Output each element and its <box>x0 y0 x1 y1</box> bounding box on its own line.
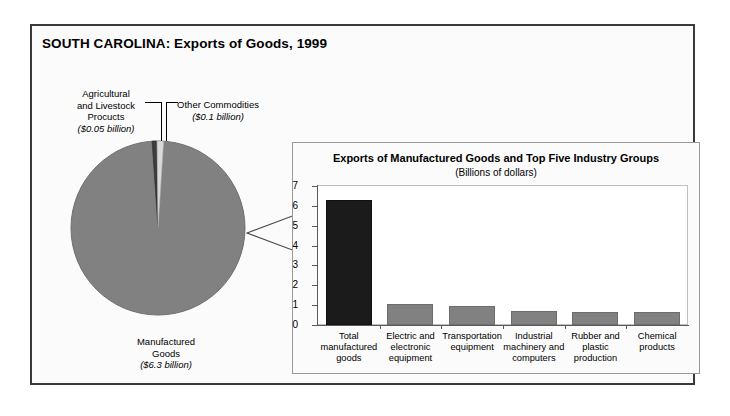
x-axis-label-2: Electric andelectronicequipment <box>380 331 442 364</box>
y-axis-tick-mark <box>312 186 317 187</box>
y-axis-tick-mark <box>312 206 317 207</box>
bar-slot <box>565 186 627 325</box>
x-axis-tick-mark <box>441 325 442 329</box>
bar-1 <box>326 200 372 325</box>
bar-slot <box>441 186 503 325</box>
y-axis-tick-label: 5 <box>278 220 298 231</box>
x-axis-label-3: Transportationequipment <box>441 331 503 353</box>
bar-chart-title: Exports of Manufactured Goods and Top Fi… <box>293 152 699 164</box>
chart-page: SOUTH CAROLINA: Exports of Goods, 1999 A… <box>0 0 730 416</box>
pie-label-line2: and Livestock <box>77 100 135 111</box>
y-axis-tick-label: 0 <box>278 319 298 330</box>
x-axis-label-6: Chemicalproducts <box>626 331 688 353</box>
pie-label-line1: Manufactured <box>137 336 195 347</box>
x-axis-label-5: Rubber andplasticproduction <box>565 331 627 364</box>
bar-chart-subtitle: (Billions of dollars) <box>293 167 699 178</box>
pie-label-line2: Goods <box>152 348 180 359</box>
pie-label-manufactured-goods: Manufactured Goods ($6.3 billion) <box>106 336 226 371</box>
y-axis-tick-label: 7 <box>278 180 298 191</box>
pie-chart <box>70 140 246 316</box>
bar-5 <box>572 312 618 326</box>
pie-label-other-commodities: Other Commodities ($0.1 billion) <box>163 99 273 122</box>
bar-series <box>318 186 688 325</box>
y-axis-tick-label: 1 <box>278 299 298 310</box>
bar-6 <box>634 312 680 325</box>
bar-slot <box>503 186 565 325</box>
y-axis-tick-label: 2 <box>278 279 298 290</box>
x-axis-label-4: Industrialmachinery andcomputers <box>503 331 565 364</box>
y-axis-tick-label: 6 <box>278 200 298 211</box>
pie-label-agricultural-livestock: Agricultural and Livestock Procucts ($0.… <box>60 88 152 134</box>
bar-slot <box>318 186 380 325</box>
y-axis-tick-mark <box>312 226 317 227</box>
pie-label-amount: ($6.3 billion) <box>106 359 226 371</box>
pie-label-line3: Procucts <box>88 111 125 122</box>
x-axis-tick-mark <box>503 325 504 329</box>
pie-label-amount: ($0.1 billion) <box>163 111 273 123</box>
y-axis-tick-label: 4 <box>278 240 298 251</box>
x-axis-labels: TotalmanufacturedgoodsElectric andelectr… <box>318 331 688 375</box>
bar-slot <box>626 186 688 325</box>
bar-2 <box>387 304 433 325</box>
x-axis-label-1: Totalmanufacturedgoods <box>318 331 380 364</box>
pie-label-line1: Agricultural <box>82 88 130 99</box>
x-axis-tick-mark <box>626 325 627 329</box>
x-axis-tick-mark <box>380 325 381 329</box>
bar-slot <box>380 186 442 325</box>
x-axis-tick-mark <box>565 325 566 329</box>
y-axis-tick-mark <box>312 285 317 286</box>
y-axis-tick-mark <box>312 265 317 266</box>
y-axis-tick-mark <box>312 246 317 247</box>
y-axis-tick-label: 3 <box>278 259 298 270</box>
pie-label-line1: Other Commodities <box>177 99 259 110</box>
pie-svg <box>70 140 246 316</box>
page-title: SOUTH CAROLINA: Exports of Goods, 1999 <box>42 36 327 51</box>
bar-3 <box>449 306 495 325</box>
y-axis-tick-mark <box>312 325 317 326</box>
y-axis-tick-mark <box>312 305 317 306</box>
pie-label-amount: ($0.05 billion) <box>60 123 152 135</box>
bar-4 <box>511 311 557 325</box>
bar-chart-panel: Exports of Manufactured Goods and Top Fi… <box>292 142 700 374</box>
leader-line-agricultural-stem <box>161 102 162 141</box>
